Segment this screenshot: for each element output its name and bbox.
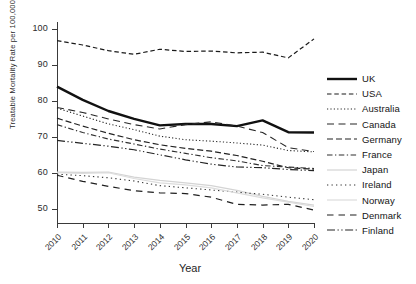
y-tick-label: 90 xyxy=(0,59,48,69)
legend-line-swatch-icon xyxy=(327,150,357,160)
legend-item-france[interactable]: France xyxy=(327,147,415,162)
x-tick-label: 2018 xyxy=(242,232,269,259)
legend-line-swatch-icon xyxy=(327,89,357,99)
x-tick-mark xyxy=(263,223,264,228)
legend-line-swatch-icon xyxy=(327,180,357,190)
x-tick-mark xyxy=(160,223,161,228)
legend-item-label: Germany xyxy=(357,134,402,145)
x-tick-label: 2014 xyxy=(139,232,166,259)
x-tick-label: 2015 xyxy=(165,232,192,259)
x-tick-mark xyxy=(211,223,212,228)
legend-item-australia[interactable]: Australia xyxy=(327,101,415,116)
x-tick-label: 2019 xyxy=(268,232,295,259)
legend-item-label: Denmark xyxy=(357,210,401,221)
x-tick-mark xyxy=(186,223,187,228)
x-tick-label: 2020 xyxy=(293,232,320,259)
series-line-france xyxy=(57,125,314,169)
series-line-uk xyxy=(57,87,314,133)
legend-item-label: Ireland xyxy=(357,179,392,190)
x-tick-label: 2017 xyxy=(216,232,243,259)
x-tick-label: 2010 xyxy=(36,232,63,259)
x-tick-mark xyxy=(134,223,135,228)
legend-item-label: Norway xyxy=(357,195,395,206)
series-lines xyxy=(57,22,314,223)
x-tick-mark xyxy=(57,223,58,228)
legend-line-swatch-icon xyxy=(327,165,357,175)
x-tick-mark xyxy=(288,223,289,228)
x-tick-mark xyxy=(108,223,109,228)
legend-item-japan[interactable]: Japan xyxy=(327,162,415,177)
legend-line-swatch-icon xyxy=(327,134,357,144)
legend-item-label: Canada xyxy=(357,119,396,130)
series-line-ireland xyxy=(57,174,314,199)
legend-item-label: USA xyxy=(357,88,382,99)
legend-item-usa[interactable]: USA xyxy=(327,86,415,101)
series-line-norway xyxy=(57,173,314,207)
x-tick-mark xyxy=(237,223,238,228)
legend-line-swatch-icon xyxy=(327,74,357,84)
x-axis-title: Year xyxy=(130,262,250,274)
legend-line-swatch-icon xyxy=(327,225,357,235)
x-tick-label: 2012 xyxy=(88,232,115,259)
legend-item-label: Australia xyxy=(357,103,400,114)
y-tick-label: 70 xyxy=(0,131,48,141)
legend-item-uk[interactable]: UK xyxy=(327,71,415,86)
chart-figure: Treatable Mortality Rate per 100,000 506… xyxy=(0,0,416,284)
legend-item-label: Japan xyxy=(357,164,388,175)
legend-item-denmark[interactable]: Denmark xyxy=(327,208,415,223)
x-tick-label: 2016 xyxy=(191,232,218,259)
legend-line-swatch-icon xyxy=(327,195,357,205)
x-tick-mark xyxy=(314,223,315,228)
y-tick-label: 80 xyxy=(0,95,48,105)
legend-item-label: UK xyxy=(357,73,375,84)
x-tick-label: 2011 xyxy=(62,232,89,259)
legend: UKUSAAustraliaCanadaGermanyFranceJapanIr… xyxy=(327,71,415,238)
y-tick-label: 60 xyxy=(0,167,48,177)
legend-item-canada[interactable]: Canada xyxy=(327,117,415,132)
legend-line-swatch-icon xyxy=(327,210,357,220)
legend-item-label: Finland xyxy=(357,225,394,236)
y-tick-label: 50 xyxy=(0,203,48,213)
x-tick-mark xyxy=(83,223,84,228)
legend-line-swatch-icon xyxy=(327,119,357,129)
y-tick-label: 100 xyxy=(0,23,48,33)
plot-area xyxy=(57,22,314,223)
legend-item-ireland[interactable]: Ireland xyxy=(327,177,415,192)
legend-item-label: France xyxy=(357,149,392,160)
legend-item-germany[interactable]: Germany xyxy=(327,132,415,147)
legend-line-swatch-icon xyxy=(327,104,357,114)
x-tick-label: 2013 xyxy=(113,232,140,259)
legend-item-norway[interactable]: Norway xyxy=(327,193,415,208)
legend-item-finland[interactable]: Finland xyxy=(327,223,415,238)
series-line-denmark xyxy=(57,175,314,210)
series-line-finland xyxy=(57,140,314,170)
series-line-usa xyxy=(57,39,314,58)
